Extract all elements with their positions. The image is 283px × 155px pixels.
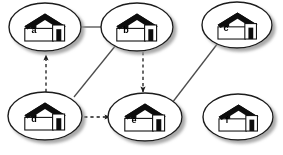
diagram-canvas: a b c d e f — [0, 0, 283, 155]
node-d-label: d — [31, 114, 37, 124]
node-e-ellipse — [108, 93, 182, 141]
node-c-ellipse — [202, 2, 272, 48]
node-b[interactable]: b — [101, 3, 173, 51]
node-e-label: e — [131, 115, 136, 125]
node-c-label: c — [223, 23, 228, 33]
node-b-label: b — [123, 25, 129, 35]
node-b-ellipse — [101, 3, 173, 51]
node-a[interactable]: a — [9, 3, 81, 51]
node-f[interactable]: f — [203, 94, 273, 140]
node-d[interactable]: d — [8, 92, 82, 140]
node-a-ellipse — [9, 3, 81, 51]
node-e[interactable]: e — [108, 93, 182, 141]
node-d-ellipse — [8, 92, 82, 140]
node-c[interactable]: c — [202, 2, 272, 48]
node-f-ellipse — [203, 94, 273, 140]
edge-c-e[interactable] — [172, 43, 218, 103]
graph-svg: a b c d e f — [0, 0, 283, 155]
edge-b-d[interactable] — [74, 45, 116, 97]
